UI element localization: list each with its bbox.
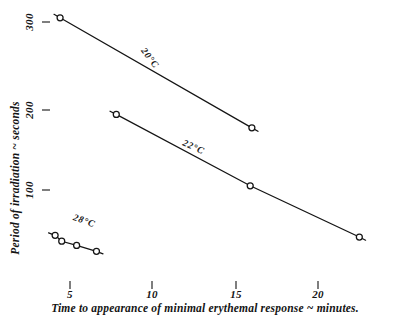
x-tick-label-15: 15 [230, 288, 242, 300]
data-point [356, 234, 362, 240]
x-axis-ticks [70, 281, 318, 289]
data-point [249, 125, 255, 131]
y-tick-label-100: 100 [23, 181, 35, 199]
series-28c: 28°C [49, 212, 103, 254]
series-20c-line [54, 14, 258, 131]
data-point [52, 232, 58, 238]
series-22c: 22°C [110, 111, 366, 240]
x-tick-label-20: 20 [311, 288, 324, 300]
x-tick-label-5: 5 [67, 288, 73, 300]
erythemal-response-plot: 300 200 100 Period of irradiation ~ seco… [0, 0, 395, 320]
data-point [59, 238, 65, 244]
y-axis-title: Period of irradiation ~ seconds [9, 101, 22, 255]
y-tick-label-200: 200 [23, 101, 35, 120]
series-28c-label: 28°C [71, 212, 97, 230]
x-tick-label-10: 10 [146, 288, 158, 300]
y-axis-ticks [42, 22, 50, 190]
series-28c-points [52, 232, 99, 254]
y-tick-label-300: 300 [23, 13, 35, 32]
data-point [113, 111, 119, 117]
series-20c: 20°C [54, 14, 258, 131]
series-22c-line [110, 111, 366, 240]
chart-figure: 300 200 100 Period of irradiation ~ seco… [0, 0, 395, 320]
data-point [93, 248, 99, 254]
x-axis-title: Time to appearance of minimal erythemal … [51, 302, 359, 315]
series-20c-label: 20°C [138, 45, 161, 70]
data-point [74, 242, 80, 248]
series-22c-label: 22°C [180, 137, 206, 156]
data-point [247, 183, 253, 189]
data-point [57, 15, 63, 21]
